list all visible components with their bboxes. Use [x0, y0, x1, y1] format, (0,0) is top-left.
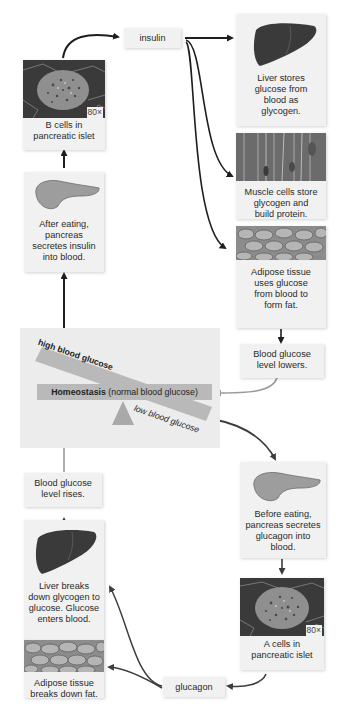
homeostasis-bar: Homeostasis (normal blood glucose) [37, 384, 212, 400]
liver-icon [24, 520, 104, 576]
adipose-breaks-node: Adipose tissue breaks down fat. [24, 640, 104, 698]
glucose-rises-text: Blood glucose level rises. [24, 473, 102, 505]
a-cells-micrograph: 80× [240, 578, 324, 636]
liver-breaks-text: Liver breaks down glycogen to glucose. G… [24, 579, 104, 627]
a-cells-node: 80× A cells in pancreatic islet [240, 578, 324, 670]
pancreas-before-eating-node: Before eating, pancreas secretes glucago… [240, 462, 326, 558]
pancreas-before-eating-text: Before eating, pancreas secretes glucago… [240, 509, 326, 553]
homeostasis-bold-label: Homeostasis [51, 387, 106, 397]
glucagon-label: glucagon [163, 677, 225, 697]
a-cells-magnification: 80× [306, 625, 322, 636]
fulcrum-triangle [112, 401, 134, 425]
a-cells-label-line1: A cells in [264, 639, 300, 649]
pancreas-icon [240, 462, 326, 506]
adipose-tissue-icon [24, 640, 104, 672]
a-cells-label-line2: pancreatic islet [251, 650, 312, 660]
homeostasis-normal-label: (normal blood glucose) [106, 387, 198, 397]
liver-breaks-node: Liver breaks down glycogen to glucose. G… [24, 520, 104, 640]
glucose-rises-node: Blood glucose level rises. [24, 473, 102, 507]
glucagon-node: glucagon [163, 677, 225, 697]
adipose-breaks-text: Adipose tissue breaks down fat. [24, 675, 104, 703]
